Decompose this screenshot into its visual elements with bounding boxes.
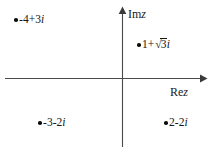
point-label-real: -4+3 bbox=[19, 13, 41, 25]
point-label-imaginary-unit: i bbox=[41, 13, 44, 25]
point-label-real: -3-2 bbox=[43, 116, 62, 128]
imaginary-axis-arrowhead bbox=[119, 7, 127, 15]
real-axis-label-prefix: Re bbox=[170, 85, 183, 99]
imaginary-axis-label: Imz bbox=[128, 8, 146, 20]
data-point-1-plus-sqrt3i: 1+√3i bbox=[137, 38, 170, 51]
point-marker-dot bbox=[14, 18, 18, 22]
point-label-real: 2-2 bbox=[169, 116, 184, 128]
data-point-2-minus-2i: 2-2i bbox=[164, 117, 188, 129]
real-axis-label: Rez bbox=[170, 86, 188, 98]
point-marker-dot bbox=[38, 121, 42, 125]
square-root-icon: √3 bbox=[154, 38, 167, 51]
point-label: 1+√3i bbox=[142, 38, 170, 51]
complex-plane-figure: Imz Rez -4+3i 1+√3i -3-2i 2-2i bbox=[0, 0, 211, 155]
point-marker-dot bbox=[137, 43, 141, 47]
point-label-imaginary-unit: i bbox=[184, 116, 187, 128]
imaginary-axis-label-variable: z bbox=[141, 7, 146, 21]
point-label-real: 1+ bbox=[142, 38, 154, 50]
point-label-imaginary-unit: i bbox=[62, 116, 65, 128]
real-axis-arrowhead bbox=[200, 75, 208, 83]
point-label-imaginary-unit: i bbox=[167, 38, 170, 50]
radicand: 3 bbox=[160, 38, 167, 51]
point-label: -4+3i bbox=[19, 14, 44, 26]
point-label: 2-2i bbox=[169, 117, 188, 129]
point-label: -3-2i bbox=[43, 117, 65, 129]
data-point-minus4-plus-3i: -4+3i bbox=[14, 14, 44, 26]
point-marker-dot bbox=[164, 121, 168, 125]
data-point-minus3-minus-2i: -3-2i bbox=[38, 117, 65, 129]
real-axis-label-variable: z bbox=[183, 85, 188, 99]
imaginary-axis-label-prefix: Im bbox=[128, 7, 141, 21]
